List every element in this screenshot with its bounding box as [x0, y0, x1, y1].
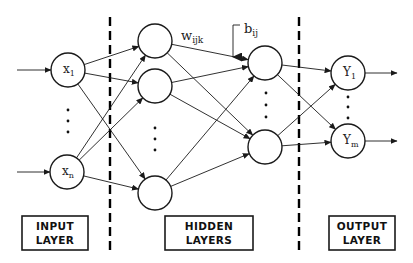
neuron-h1c — [138, 176, 172, 210]
connection-edges — [77, 44, 336, 189]
ellipsis-dot — [347, 106, 350, 109]
neuron-x1: x1 — [51, 53, 85, 87]
ellipsis-dot — [154, 138, 157, 141]
ellipsis-dot — [154, 127, 157, 130]
weight-label-sub: ijk — [192, 35, 204, 45]
bias-arrow — [233, 25, 240, 57]
ellipsis-dot — [347, 117, 350, 120]
edge-h2b-to-ym — [282, 142, 331, 146]
hidden-layers-box: HIDDEN LAYERS — [165, 216, 253, 250]
ellipsis-dot — [67, 109, 70, 112]
edge-x1-to-h1a — [84, 46, 139, 64]
input-layer-label-line1: INPUT — [36, 220, 75, 232]
neuron-circle — [248, 46, 282, 80]
hidden-layers-label-line2: LAYERS — [186, 234, 233, 246]
input-layer-label-line2: LAYER — [36, 234, 75, 246]
weight-label: wijk — [181, 28, 204, 45]
edge-xn-to-h1a — [77, 55, 146, 158]
bias-label-sub: ij — [252, 28, 258, 38]
output-layer-box: OUTPUT LAYER — [329, 216, 395, 250]
input-layer-box: INPUT LAYER — [22, 216, 88, 250]
neuron-h2b — [248, 130, 282, 164]
neuron-circle — [138, 176, 172, 210]
neuron-h1a — [138, 24, 172, 58]
ellipsis-dot — [265, 92, 268, 95]
ellipsis-dot — [154, 149, 157, 152]
edge-h1a-to-h2b — [167, 53, 253, 135]
edge-h2a-to-y1 — [282, 65, 331, 71]
ellipsis-dot — [67, 120, 70, 123]
neuron-ym: Ym — [331, 124, 365, 158]
ellipsis-dot — [265, 116, 268, 119]
neuron-y1: Y1 — [331, 56, 365, 90]
edge-h1b-to-h2a — [172, 67, 249, 83]
ellipsis-dot — [265, 104, 268, 107]
edge-h1b-to-h2b — [170, 94, 250, 139]
neuron-xn: xn — [50, 155, 84, 189]
edge-h2b-to-y1 — [278, 84, 336, 135]
output-layer-label-line2: LAYER — [343, 234, 382, 246]
neuron-h2a — [248, 46, 282, 80]
neuron-circle — [138, 69, 172, 103]
bias-label: bij — [244, 21, 258, 38]
hidden-layers-label-line1: HIDDEN — [185, 220, 234, 232]
ellipsis-dot — [347, 96, 350, 99]
layer-label-boxes: INPUT LAYER HIDDEN LAYERS OUTPUT LAYER — [22, 216, 395, 250]
bias-arrow-icon — [233, 25, 240, 57]
weight-label-main: w — [181, 28, 192, 43]
output-layer-label-line1: OUTPUT — [337, 220, 388, 232]
neuron-circle — [248, 130, 282, 164]
edge-h1c-to-h2a — [166, 76, 254, 180]
edge-x1-to-h1c — [78, 84, 145, 179]
edge-h1c-to-h2b — [171, 154, 250, 187]
edge-h1a-to-h2a — [172, 44, 249, 59]
ellipsis-dot — [67, 131, 70, 134]
edge-h2a-to-ym — [277, 75, 335, 130]
neural-network-diagram: x1xnY1Ym wijk bij INPUT LAYER HIDDEN LAY… — [0, 0, 413, 263]
neuron-h1b — [138, 69, 172, 103]
bias-label-main: b — [244, 21, 252, 36]
neuron-circle — [138, 24, 172, 58]
